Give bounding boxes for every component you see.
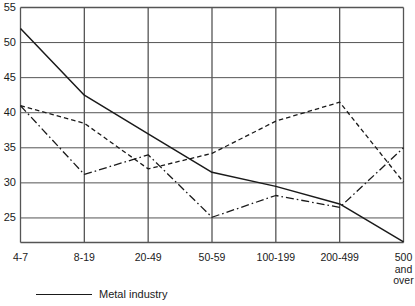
y-tick-label: 35 xyxy=(0,142,16,153)
y-tick-label: 55 xyxy=(0,2,16,13)
x-tick-label: 500 and over xyxy=(369,252,415,287)
y-tick-label: 25 xyxy=(0,212,16,223)
legend: Metal industry xyxy=(36,288,167,300)
x-tick-label: 20-49 xyxy=(113,252,183,264)
line-chart: 55504540353025 4-78-1920-4950-59100-1992… xyxy=(0,0,415,306)
x-tick-label: 100-199 xyxy=(241,252,311,264)
x-tick-label: 200-499 xyxy=(305,252,375,264)
x-tick-label: 4-7 xyxy=(0,252,56,264)
legend-label-metal-industry: Metal industry xyxy=(99,288,167,300)
x-tick-label: 8-19 xyxy=(49,252,119,264)
y-tick-label: 50 xyxy=(0,37,16,48)
y-tick-label: 30 xyxy=(0,177,16,188)
legend-swatch-solid-line xyxy=(36,294,92,295)
y-tick-label: 45 xyxy=(0,72,16,83)
y-tick-label: 40 xyxy=(0,107,16,118)
x-tick-label: 50-59 xyxy=(177,252,247,264)
